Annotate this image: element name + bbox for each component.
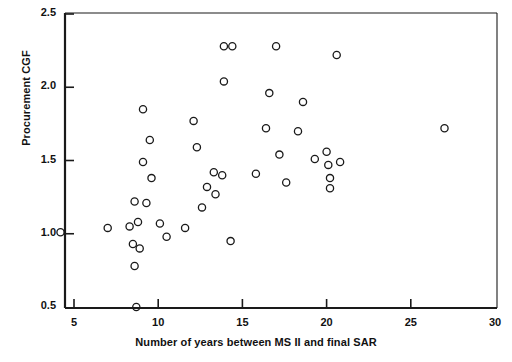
scatter-plot-figure: Procurement CGF Number of years between … [0,0,512,362]
data-point [203,183,210,190]
data-point [139,158,146,165]
data-point [273,43,280,50]
data-point [227,238,234,245]
x-axis-title: Number of years between MS II and final … [0,336,512,348]
y-tick-label: 1.0 [22,226,56,238]
x-tick-label: 30 [480,316,510,328]
data-point [146,136,153,143]
data-point [198,204,205,211]
data-point [182,224,189,231]
data-point [441,125,448,132]
data-point [126,223,133,230]
data-point-markers [57,43,448,311]
data-point [143,199,150,206]
data-point [326,175,333,182]
data-point [104,224,111,231]
data-point [311,155,318,162]
data-point [299,98,306,105]
plot-frame [65,13,497,308]
data-point [220,78,227,85]
y-tick-label: 0.5 [22,299,56,311]
data-point [266,90,273,97]
data-point [57,229,64,236]
data-point [156,220,163,227]
data-point [163,233,170,240]
x-tick-label: 20 [312,316,342,328]
data-point [131,198,138,205]
data-point [333,51,340,58]
data-point [337,158,344,165]
data-point [262,125,269,132]
data-point [220,43,227,50]
data-point [148,175,155,182]
data-point [276,151,283,158]
data-point [139,106,146,113]
data-point [212,191,219,198]
y-axis-ticks [65,14,74,234]
data-point [136,245,143,252]
data-point [325,161,332,168]
data-point [252,170,259,177]
data-point [134,218,141,225]
data-point [129,240,136,247]
x-axis-ticks [74,299,411,308]
data-point [219,172,226,179]
plot-canvas [0,0,512,362]
data-point [283,179,290,186]
x-tick-label: 25 [396,316,426,328]
y-axis-title: Procurement CGF [20,28,32,168]
data-point [131,262,138,269]
y-tick-label: 2.0 [22,79,56,91]
data-point [323,148,330,155]
y-tick-label: 2.5 [22,6,56,18]
data-point [190,117,197,124]
x-tick-label: 5 [59,316,89,328]
data-point [326,185,333,192]
data-point [229,43,236,50]
x-tick-label: 15 [227,316,257,328]
data-point [210,169,217,176]
x-tick-label: 10 [143,316,173,328]
data-point [193,144,200,151]
y-tick-label: 1.5 [22,153,56,165]
data-point [294,128,301,135]
